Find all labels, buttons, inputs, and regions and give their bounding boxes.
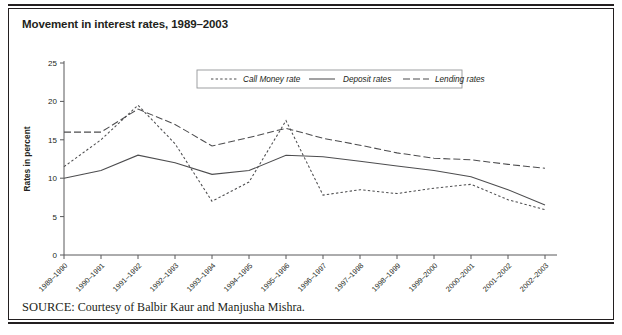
source-text: Courtesy of Balbir Kaur and Manjusha Mis… [78,300,305,314]
figure-title: Movement in interest rates, 1989–2003 [22,18,228,30]
figure-top-rule [8,4,614,6]
source-label: SOURCE: [22,300,75,314]
figure-frame [8,8,614,320]
figure-bottom-rule [8,322,614,324]
source-note: SOURCE: Courtesy of Balbir Kaur and Manj… [22,300,305,315]
figure-container: Movement in interest rates, 1989–2003 05… [0,0,622,335]
